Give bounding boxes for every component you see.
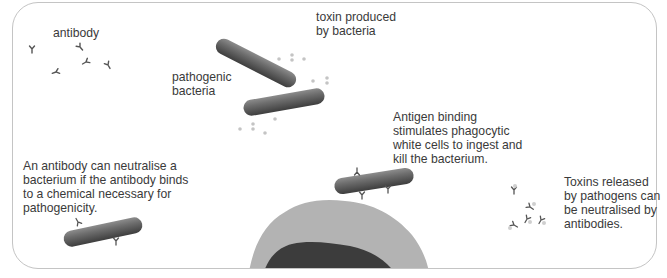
free-antibodies — [30, 43, 113, 76]
antibody-icon — [104, 61, 112, 70]
label-neutralise-bacterium: An antibody can neutralise a bacterium i… — [23, 159, 188, 215]
label-antibody: antibody — [53, 26, 99, 40]
antibody-icon — [74, 217, 82, 226]
antibody-icon — [360, 192, 365, 199]
phagocyte-cell — [248, 200, 430, 278]
neutralised-bacterium — [62, 216, 144, 248]
label-pathogenic-bacteria: pathogenic bacteria — [172, 70, 232, 98]
label-neutralise-toxin: Toxins released by pathogens can be neut… — [564, 175, 660, 231]
antibody-icon — [81, 58, 90, 66]
label-phagocytosis: Antigen binding stimulates phagocytic wh… — [393, 110, 522, 166]
antibody-icon — [386, 186, 391, 193]
diagram-artwork — [0, 0, 667, 278]
antibody-icon — [512, 187, 517, 194]
antibody-icon — [30, 46, 35, 53]
antibody-icon — [355, 168, 360, 175]
bacterium-with-antibodies — [333, 167, 415, 199]
antibody-icon — [76, 43, 84, 52]
antibody-icon — [114, 238, 119, 245]
antibody-icon — [51, 69, 59, 76]
label-toxin: toxin produced by bacteria — [316, 10, 396, 38]
bacterium — [242, 87, 326, 117]
neutralised-toxins — [510, 187, 545, 229]
